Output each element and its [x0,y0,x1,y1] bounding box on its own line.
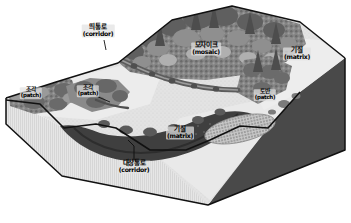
corridor-strip-leader-line [104,40,106,50]
diagram-canvas [0,0,351,223]
landscape-block-diagram: 띄통로 (corridor) 조각 (patch) 조각 (patch) 모자이… [0,0,351,223]
